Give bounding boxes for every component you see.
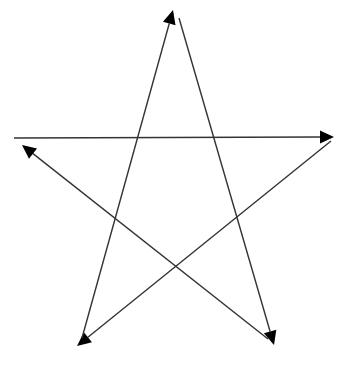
arrowhead-bottom-left-icon [77, 332, 92, 346]
line-bottom-right-to-left [33, 154, 268, 339]
line-right-to-bottom-left [88, 141, 331, 337]
arrow-segments [14, 10, 334, 346]
line-horizontal [14, 137, 320, 138]
pentagram-diagram [0, 0, 352, 379]
arrowhead-right-icon [320, 131, 334, 144]
line-bottom-left-to-top [82, 23, 169, 338]
line-top-to-bottom-right [179, 18, 270, 332]
arrowhead-top-icon [163, 10, 176, 25]
arrowhead-top-left-icon [22, 145, 37, 159]
